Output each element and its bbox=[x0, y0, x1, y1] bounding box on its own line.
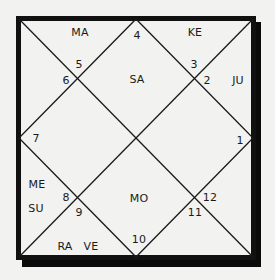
planet-sun: SU bbox=[28, 203, 43, 215]
house-number-10: 10 bbox=[132, 234, 146, 246]
house-number-7: 7 bbox=[32, 133, 39, 145]
planet-rahu: RA bbox=[57, 241, 72, 253]
planet-ketu: KE bbox=[188, 27, 203, 39]
planet-saturn: SA bbox=[129, 74, 144, 86]
planet-jupiter: JU bbox=[232, 75, 244, 87]
planet-mars: MA bbox=[71, 27, 88, 39]
house-number-8: 8 bbox=[62, 192, 69, 204]
house-number-9: 9 bbox=[75, 207, 82, 219]
planet-moon: MO bbox=[130, 193, 149, 205]
house-number-2: 2 bbox=[203, 75, 210, 87]
planet-mercury: ME bbox=[29, 179, 46, 191]
house-number-3: 3 bbox=[190, 59, 197, 71]
house-number-4: 4 bbox=[133, 30, 140, 42]
house-number-1: 1 bbox=[236, 135, 243, 147]
house-number-11: 11 bbox=[188, 207, 202, 219]
house-number-12: 12 bbox=[203, 192, 217, 204]
planet-venus: VE bbox=[84, 241, 99, 253]
house-number-5: 5 bbox=[75, 59, 82, 71]
house-number-6: 6 bbox=[62, 75, 69, 87]
